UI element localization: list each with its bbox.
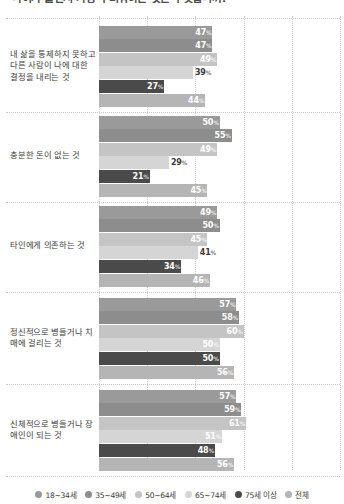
bar-value-label: 44% [188, 94, 204, 107]
bar-value-label: 58% [222, 311, 238, 324]
bar-row: 61% [99, 417, 340, 430]
bar-value-label: 21% [133, 170, 149, 183]
bar-35~49세[interactable] [99, 219, 220, 232]
bar-value-label: 56% [217, 458, 233, 471]
bar-row: 57% [99, 298, 340, 311]
bar-18~34세[interactable] [99, 116, 220, 129]
legend-swatch-icon [35, 491, 42, 498]
bar-row: 58% [99, 311, 340, 324]
bar-value-label: 55% [215, 129, 231, 142]
bar-row: 60% [99, 325, 340, 338]
bar-row: 49% [99, 206, 340, 219]
bar-row: 50% [99, 352, 340, 365]
bar-row: 39% [99, 66, 340, 79]
bar-row: 46% [99, 274, 340, 287]
bar-value-label: 48% [198, 444, 214, 457]
bar-value-label: 39% [195, 66, 211, 79]
category-label: 충분한 돈이 없는 것 [10, 150, 96, 162]
legend-item-4[interactable]: 75세 이상 [235, 489, 276, 500]
chart-legend: 18~34세35~49세50~64세65~74세75세 이상전체 [0, 489, 344, 500]
bar-row: 49% [99, 53, 340, 66]
bar-18~34세[interactable] [99, 298, 236, 311]
bar-value-label: 50% [203, 338, 219, 351]
bar-65~74세[interactable] [99, 338, 220, 351]
bar-50~64세[interactable] [99, 325, 244, 338]
bar-value-label: 45% [190, 184, 206, 197]
bars-container: 47%47%49%39%27%44% [99, 22, 344, 110]
bar-value-label: 50% [203, 352, 219, 365]
group-separator-top [6, 18, 340, 19]
legend-label: 75세 이상 [245, 489, 276, 500]
bar-group: 내 삶을 통제하지 못하고 다른 사람이 나에 대한 결정을 내리는 것47%4… [0, 22, 344, 110]
bar-value-label: 61% [229, 417, 245, 430]
bar-65~74세[interactable] [99, 246, 198, 259]
bar-group: 신체적으로 병들거나 장애인이 되는 것57%59%61%51%48%56% [0, 386, 344, 474]
bar-row: 45% [99, 233, 340, 246]
bar-value-label: 60% [227, 325, 243, 338]
category-label: 신체적으로 병들거나 장애인이 되는 것 [10, 419, 96, 442]
legend-item-1[interactable]: 35~49세 [85, 489, 126, 500]
bar-value-label: 34% [164, 260, 180, 273]
legend-item-0[interactable]: 18~34세 [35, 489, 76, 500]
bar-전체[interactable] [99, 458, 234, 471]
bar-value-label: 49% [200, 143, 216, 156]
bar-50~64세[interactable] [99, 417, 246, 430]
bar-row: 34% [99, 260, 340, 273]
category-label: 내 삶을 통제하지 못하고 다른 사람이 나에 대한 결정을 내리는 것 [10, 49, 96, 84]
bars-container: 57%59%61%51%48%56% [99, 386, 344, 474]
bar-value-label: 51% [205, 430, 221, 443]
bar-value-label: 57% [219, 298, 235, 311]
legend-item-5[interactable]: 전체 [285, 489, 308, 500]
bar-row: 44% [99, 94, 340, 107]
bar-value-label: 49% [200, 206, 216, 219]
bar-row: 59% [99, 403, 340, 416]
bar-row: 27% [99, 80, 340, 93]
bars-container: 50%55%49%29%21%45% [99, 112, 344, 200]
bar-value-label: 50% [203, 219, 219, 232]
bar-75세 이상[interactable] [99, 352, 220, 365]
legend-label: 18~34세 [45, 489, 76, 500]
legend-item-2[interactable]: 50~64세 [135, 489, 176, 500]
bar-row: 57% [99, 390, 340, 403]
legend-swatch-icon [135, 491, 142, 498]
bar-row: 48% [99, 444, 340, 457]
bar-row: 50% [99, 116, 340, 129]
bar-value-label: 57% [219, 390, 235, 403]
bar-전체[interactable] [99, 366, 234, 379]
bar-row: 47% [99, 39, 340, 52]
bar-row: 29% [99, 156, 340, 169]
bars-container: 49%50%45%41%34%46% [99, 202, 344, 290]
bar-value-label: 49% [200, 53, 216, 66]
bar-65~74세[interactable] [99, 430, 222, 443]
bar-65~74세[interactable] [99, 66, 193, 79]
bar-value-label: 50% [203, 116, 219, 129]
bar-row: 47% [99, 26, 340, 39]
bar-65~74세[interactable] [99, 156, 169, 169]
bar-18~34세[interactable] [99, 390, 236, 403]
bar-35~49세[interactable] [99, 129, 232, 142]
legend-swatch-icon [85, 491, 92, 498]
bar-row: 50% [99, 338, 340, 351]
bar-35~49세[interactable] [99, 403, 241, 416]
bar-value-label: 47% [195, 26, 211, 39]
bars-container: 57%58%60%50%50%56% [99, 294, 344, 382]
bar-chart-plot-area: 내 삶을 통제하지 못하고 다른 사람이 나에 대한 결정을 내리는 것47%4… [0, 6, 344, 478]
bar-value-label: 27% [147, 80, 163, 93]
bar-row: 56% [99, 458, 340, 471]
bar-row: 49% [99, 143, 340, 156]
page-title: 나이가 들면서 가장 두려워하는 것은 무엇입니까? [12, 0, 342, 3]
category-label: 타인에게 의존하는 것 [10, 240, 96, 252]
bar-group: 타인에게 의존하는 것49%50%45%41%34%46% [0, 202, 344, 290]
bar-row: 56% [99, 366, 340, 379]
bar-value-label: 46% [193, 274, 209, 287]
bar-row: 50% [99, 219, 340, 232]
group-separator [6, 384, 340, 385]
bar-35~49세[interactable] [99, 311, 239, 324]
legend-item-3[interactable]: 65~74세 [185, 489, 226, 500]
bar-row: 51% [99, 430, 340, 443]
bar-value-label: 41% [200, 246, 216, 259]
legend-label: 35~49세 [95, 489, 126, 500]
bar-value-label: 45% [190, 233, 206, 246]
group-separator [6, 476, 340, 477]
bar-value-label: 56% [217, 366, 233, 379]
